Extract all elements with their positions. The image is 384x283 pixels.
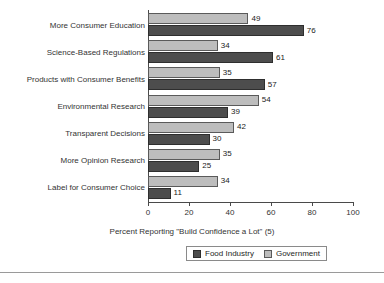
bar-value-label: 30 xyxy=(210,135,222,143)
category-label: Science-Based Regulations xyxy=(3,47,145,56)
category-label: Transparent Decisions xyxy=(3,129,145,138)
category-label: Products with Consumer Benefits xyxy=(3,74,145,83)
category-label: Environmental Research xyxy=(3,102,145,111)
bar-value-label: 35 xyxy=(220,69,232,77)
bar-row: 57 xyxy=(148,79,353,90)
bar-government xyxy=(148,122,234,133)
bar-value-label: 61 xyxy=(273,54,285,62)
bar-value-label: 11 xyxy=(171,189,182,197)
x-tick-label: 0 xyxy=(146,208,150,217)
x-axis-title: Percent Reporting "Build Confidence a Lo… xyxy=(0,227,384,237)
bar-food-industry xyxy=(148,188,171,199)
legend-swatch-icon xyxy=(193,250,201,258)
bar-row: 11 xyxy=(148,188,353,199)
legend-label: Government xyxy=(276,249,320,258)
x-tick-label: 40 xyxy=(226,208,235,217)
x-axis-line xyxy=(148,202,354,203)
bar-food-industry xyxy=(148,79,265,90)
chart-legend: Food IndustryGovernment xyxy=(186,246,327,261)
bar-food-industry xyxy=(148,107,228,118)
x-tick xyxy=(312,202,313,206)
bar-value-label: 42 xyxy=(234,123,246,131)
bar-row: 34 xyxy=(148,176,353,187)
bar-government xyxy=(148,67,220,78)
plot-area: 4976346135575439423035253411 xyxy=(148,11,353,201)
legend-item: Government xyxy=(264,249,320,258)
bar-government xyxy=(148,176,218,187)
bar-value-label: 76 xyxy=(304,27,316,35)
bar-government xyxy=(148,95,259,106)
bar-government xyxy=(148,149,220,160)
category-axis-labels: More Consumer EducationScience-Based Reg… xyxy=(0,11,145,201)
category-label: More Opinion Research xyxy=(3,156,145,165)
bar-row: 76 xyxy=(148,25,353,36)
bar-value-label: 34 xyxy=(218,42,230,50)
bar-chart-figure: More Consumer EducationScience-Based Reg… xyxy=(0,0,384,283)
x-tick xyxy=(230,202,231,206)
x-tick-label: 100 xyxy=(346,208,359,217)
bar-row: 54 xyxy=(148,95,353,106)
bar-value-label: 54 xyxy=(259,96,271,104)
bar-food-industry xyxy=(148,161,199,172)
bar-value-label: 25 xyxy=(199,162,211,170)
bar-row: 34 xyxy=(148,40,353,51)
bar-food-industry xyxy=(148,134,210,145)
bar-food-industry xyxy=(148,52,273,63)
bar-food-industry xyxy=(148,25,304,36)
legend-label: Food Industry xyxy=(205,249,254,258)
bar-government xyxy=(148,40,218,51)
bar-row: 61 xyxy=(148,52,353,63)
x-tick xyxy=(148,202,149,206)
bar-value-label: 57 xyxy=(265,81,277,89)
bar-row: 35 xyxy=(148,149,353,160)
category-label: Label for Consumer Choice xyxy=(3,183,145,192)
bar-row: 42 xyxy=(148,122,353,133)
bar-row: 30 xyxy=(148,134,353,145)
bottom-divider xyxy=(0,272,384,273)
bar-row: 35 xyxy=(148,67,353,78)
x-tick xyxy=(353,202,354,206)
x-tick-label: 60 xyxy=(267,208,276,217)
bar-government xyxy=(148,13,248,24)
x-tick-label: 20 xyxy=(185,208,194,217)
bar-value-label: 35 xyxy=(220,150,232,158)
legend-item: Food Industry xyxy=(193,249,254,258)
bar-value-label: 39 xyxy=(228,108,240,116)
bar-value-label: 49 xyxy=(248,15,260,23)
x-tick xyxy=(271,202,272,206)
bar-row: 49 xyxy=(148,13,353,24)
bar-row: 25 xyxy=(148,161,353,172)
x-tick xyxy=(189,202,190,206)
legend-swatch-icon xyxy=(264,250,272,258)
category-label: More Consumer Education xyxy=(3,20,145,29)
bar-value-label: 34 xyxy=(218,177,230,185)
bar-row: 39 xyxy=(148,107,353,118)
x-tick-label: 80 xyxy=(308,208,317,217)
